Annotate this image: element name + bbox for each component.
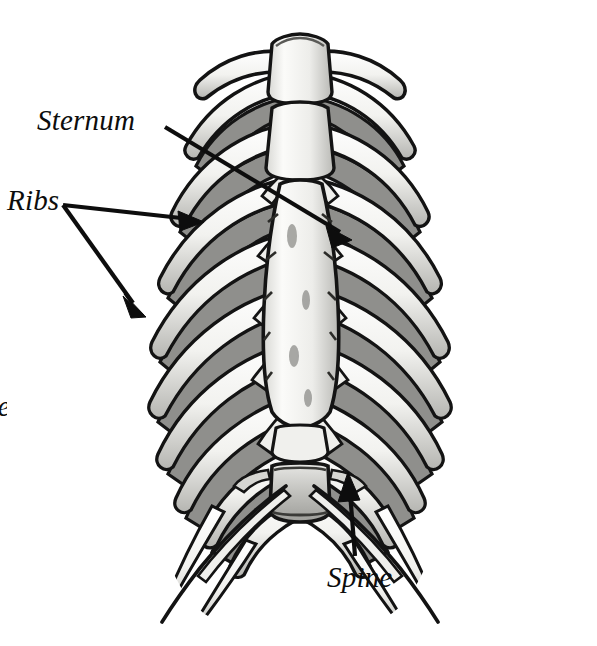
rib-cage-figure: Sternum Ribs Spine e r ne	[0, 0, 597, 646]
label-ribs: Ribs	[7, 186, 59, 215]
edge-text-fragment-1: e	[0, 292, 4, 321]
sternum-group	[263, 34, 338, 482]
edge-text-fragment-3: ne	[0, 392, 7, 421]
label-spine: Spine	[327, 563, 392, 592]
rib-cage-illustration	[0, 0, 597, 646]
label-sternum: Sternum	[37, 106, 135, 135]
